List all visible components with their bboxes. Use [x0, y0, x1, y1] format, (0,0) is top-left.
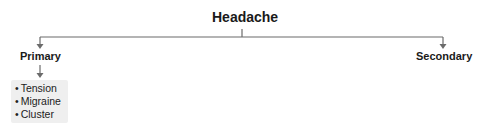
node-primary: Primary	[20, 50, 61, 62]
arrow-down-icon	[440, 44, 447, 49]
list-item: Cluster	[15, 108, 68, 121]
arrow-down-icon	[37, 73, 44, 78]
primary-types-list: Tension Migraine Cluster	[11, 80, 68, 123]
root-node-headache: Headache	[212, 9, 278, 25]
list-item: Migraine	[15, 95, 68, 108]
list-item: Tension	[15, 82, 68, 95]
node-secondary: Secondary	[416, 50, 472, 62]
arrow-down-icon	[37, 44, 44, 49]
